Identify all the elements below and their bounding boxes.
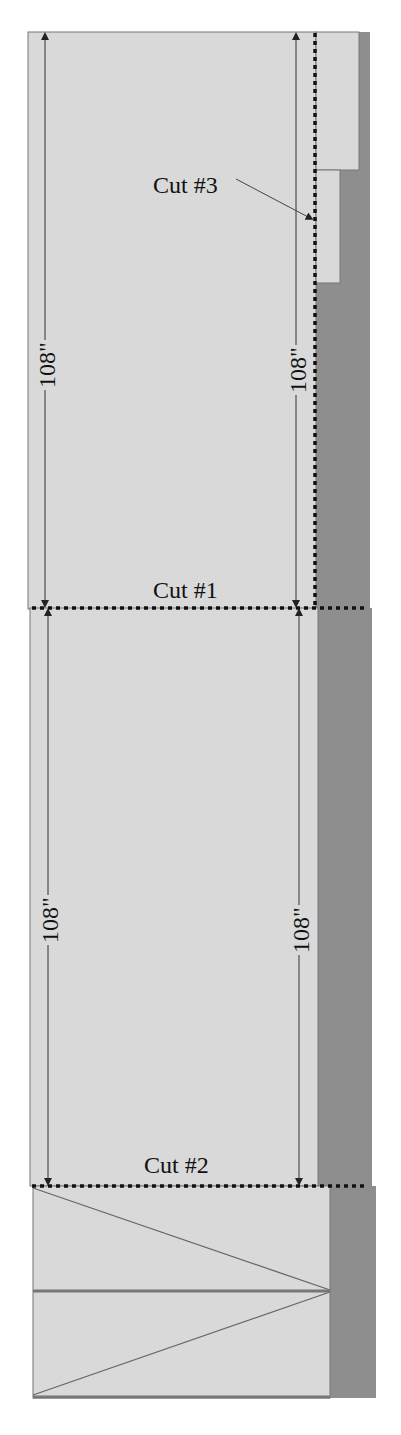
cut-diagram: Cut #3 Cut #1 Cut #2 108" 108" 108" 108" [0,0,401,1435]
upper-panel [28,32,359,609]
middle-panel [30,608,318,1186]
dimension-lower-right: 108" [288,907,314,953]
cut-2-label: Cut #2 [144,1152,209,1178]
cut-1-label: Cut #1 [153,577,218,603]
dimension-upper-right: 108" [285,347,311,393]
dimension-upper-left: 108" [34,342,60,388]
bottom-box [33,1186,330,1398]
cut-3-label: Cut #3 [153,172,218,198]
dimension-lower-left: 108" [37,897,63,943]
